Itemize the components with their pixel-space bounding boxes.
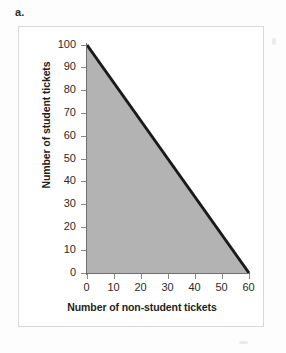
x-tick: 60 [249, 274, 250, 279]
y-axis-line [86, 43, 87, 275]
y-tick-mark [81, 136, 86, 137]
y-tick: 10 [81, 250, 86, 251]
y-tick: 40 [81, 181, 86, 182]
y-tick: 60 [81, 136, 86, 137]
y-tick-mark [81, 159, 86, 160]
x-tick: 30 [168, 274, 169, 279]
plot-area [87, 45, 249, 273]
x-tick-mark [114, 274, 115, 279]
x-tick-mark [222, 274, 223, 279]
x-tick: 50 [222, 274, 223, 279]
x-tick-mark [141, 274, 142, 279]
y-tick-mark [81, 181, 86, 182]
y-tick-label: 90 [36, 60, 81, 72]
x-tick-mark [249, 274, 250, 279]
y-tick-mark [81, 204, 86, 205]
y-tick-mark [81, 45, 86, 46]
constraint-line [87, 45, 249, 273]
y-tick: 0 [81, 273, 86, 274]
x-tick: 0 [87, 274, 88, 279]
x-axis-title: Number of non-student tickets [19, 301, 265, 313]
y-tick: 20 [81, 227, 86, 228]
y-tick-mark [81, 227, 86, 228]
x-tick: 10 [114, 274, 115, 279]
y-tick-mark [81, 113, 86, 114]
y-tick: 90 [81, 67, 86, 68]
part-label: a. [15, 6, 25, 18]
y-tick-mark [81, 67, 86, 68]
y-tick-label: 50 [36, 152, 81, 164]
y-tick: 80 [81, 90, 86, 91]
scan-smudge [272, 38, 276, 45]
chart-frame: Number of student tickets Number of non-… [18, 26, 264, 327]
y-tick-mark [81, 273, 86, 274]
y-tick-label: 80 [36, 83, 81, 95]
y-tick-mark [81, 90, 86, 91]
y-tick-label: 40 [36, 174, 81, 186]
x-tick-mark [87, 274, 88, 279]
x-tick-mark [195, 274, 196, 279]
y-tick-label: 100 [36, 38, 81, 50]
y-tick-label: 70 [36, 106, 81, 118]
x-tick: 20 [141, 274, 142, 279]
x-tick-mark [168, 274, 169, 279]
y-tick-label: 0 [36, 266, 81, 278]
x-tick-label: 60 [229, 281, 269, 293]
y-tick: 50 [81, 159, 86, 160]
y-tick-label: 30 [36, 197, 81, 209]
y-tick-label: 60 [36, 129, 81, 141]
y-tick: 30 [81, 204, 86, 205]
y-tick-label: 20 [36, 220, 81, 232]
y-tick: 70 [81, 113, 86, 114]
x-tick: 40 [195, 274, 196, 279]
y-tick-mark [81, 250, 86, 251]
scan-smudge [239, 341, 248, 344]
y-tick-label: 10 [36, 243, 81, 255]
y-tick: 100 [81, 45, 86, 46]
